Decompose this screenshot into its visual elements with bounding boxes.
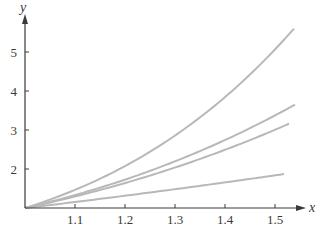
y-ticks: 2345 xyxy=(11,45,30,177)
y-tick-label: 2 xyxy=(11,162,18,177)
x-tick-label: 1.3 xyxy=(167,212,183,227)
curves xyxy=(25,29,295,208)
curve-line-2 xyxy=(25,105,295,208)
x-tick-label: 1.2 xyxy=(117,212,133,227)
curve-line-3 xyxy=(25,124,289,208)
y-tick-label: 5 xyxy=(11,45,18,60)
x-tick-label: 1.4 xyxy=(217,212,234,227)
x-tick-label: 1.5 xyxy=(267,212,283,227)
x-tick-label: 1.1 xyxy=(67,212,83,227)
y-axis-arrow-icon xyxy=(22,14,28,24)
curve-line-4 xyxy=(25,174,284,208)
y-tick-label: 3 xyxy=(11,123,18,138)
axes: y x xyxy=(18,0,316,215)
x-axis-arrow-icon xyxy=(296,205,306,211)
x-axis-label: x xyxy=(308,200,316,215)
chart: y x 1.11.21.31.41.5 2345 xyxy=(0,0,327,231)
y-axis-label: y xyxy=(18,0,27,15)
curve-line-1 xyxy=(25,29,294,208)
y-tick-label: 4 xyxy=(11,84,18,99)
